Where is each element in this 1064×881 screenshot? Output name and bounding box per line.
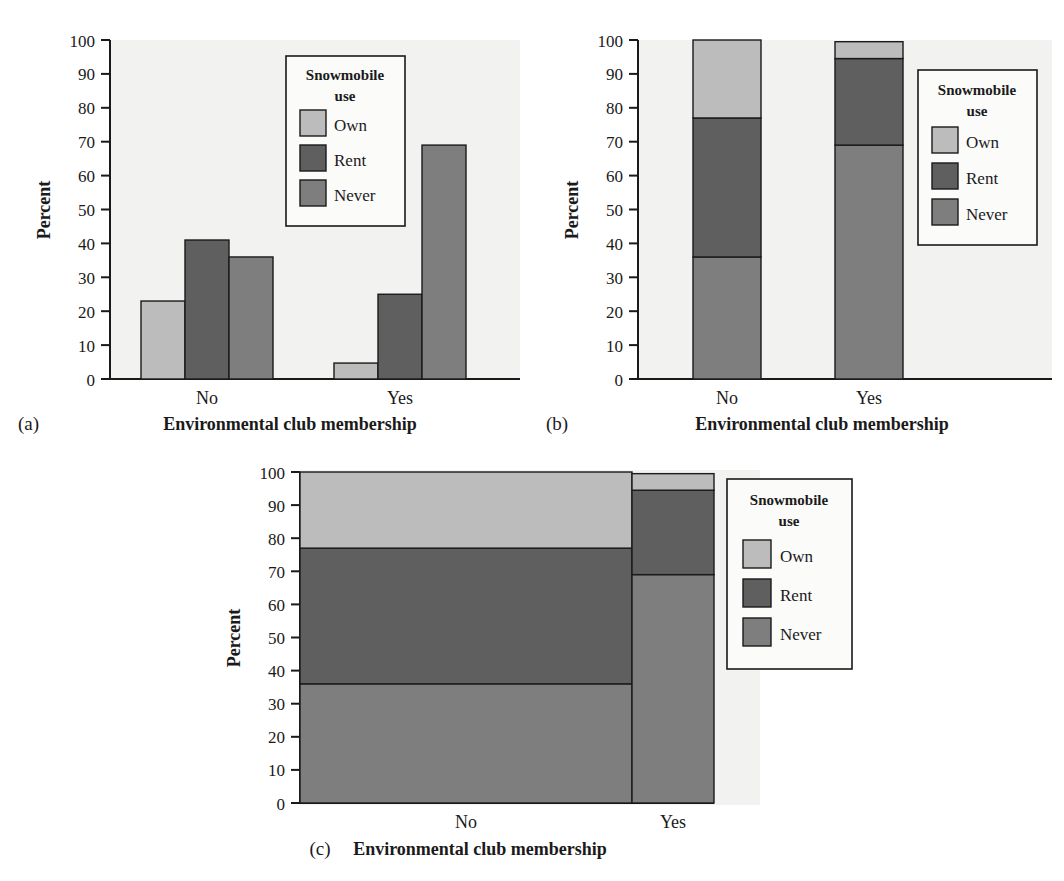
y-tick-label: 30	[268, 695, 285, 714]
y-tick-label: 40	[606, 235, 623, 254]
y-axis-ticks-b	[629, 40, 638, 379]
y-tick-label: 0	[87, 371, 96, 390]
panel-tag-a: (a)	[18, 413, 39, 435]
stack-yes-never	[835, 145, 903, 379]
y-axis-tick-labels-b: 0 10 20 30 40 50 60 70 80 90 100	[598, 32, 624, 390]
mosaic-yes-own	[632, 474, 714, 491]
y-tick-label: 100	[70, 32, 96, 51]
stack-yes-rent	[835, 59, 903, 146]
y-tick-label: 30	[78, 269, 95, 288]
legend-swatch-own-b	[932, 127, 958, 153]
x-category-label-yes-a: Yes	[387, 388, 413, 408]
x-axis-title-b: Environmental club membership	[695, 414, 949, 434]
y-tick-label: 50	[606, 201, 623, 220]
legend-label-never-c: Never	[780, 625, 822, 644]
figure-page: 0 10 20 30 40 50 60 70 80 90 100	[0, 0, 1064, 881]
mosaic-yes-never	[632, 575, 714, 803]
stack-no-never	[693, 257, 761, 379]
x-axis-title-c: Environmental club membership	[353, 839, 607, 859]
stack-no-rent	[693, 118, 761, 257]
y-tick-label: 50	[78, 201, 95, 220]
legend-label-own-c: Own	[780, 547, 814, 566]
mosaic-yes-rent	[632, 490, 714, 574]
legend-swatch-own-a	[300, 110, 326, 136]
legend-label-rent-b: Rent	[966, 169, 998, 188]
y-tick-label: 60	[78, 167, 95, 186]
y-tick-label: 40	[268, 662, 285, 681]
x-category-label-no-b: No	[716, 388, 738, 408]
y-tick-label: 70	[268, 563, 285, 582]
mosaic-column-no	[300, 472, 632, 803]
legend-swatch-never-b	[932, 199, 958, 225]
legend-title-line2-b: use	[967, 103, 988, 119]
bar-yes-never	[422, 145, 466, 379]
mosaic-column-yes	[632, 474, 714, 803]
y-tick-label: 10	[606, 337, 623, 356]
y-axis-ticks-a	[101, 40, 110, 379]
mosaic-no-never	[300, 684, 632, 803]
x-category-label-yes-b: Yes	[856, 388, 882, 408]
legend-label-own-b: Own	[966, 133, 1000, 152]
legend-label-never-a: Never	[334, 186, 376, 205]
y-tick-label: 20	[268, 728, 285, 747]
legend-a: Snowmobile use Own Rent Never	[286, 56, 405, 226]
y-axis-ticks-c	[291, 472, 300, 803]
legend-swatch-rent-c	[743, 579, 771, 607]
y-tick-label: 0	[615, 371, 624, 390]
y-tick-label: 90	[78, 65, 95, 84]
panel-tag-c: (c)	[309, 838, 330, 860]
y-axis-title-c: Percent	[224, 609, 244, 668]
panel-c-mosaic-plot: 0 10 20 30 40 50 60 70 80 90 100	[200, 440, 820, 881]
legend-swatch-never-c	[743, 618, 771, 646]
bar-yes-own	[334, 363, 378, 379]
stack-no-own	[693, 40, 761, 118]
legend-label-rent-a: Rent	[334, 151, 366, 170]
y-axis-tick-labels-c: 0 10 20 30 40 50 60 70 80 90 100	[260, 464, 286, 814]
legend-label-never-b: Never	[966, 205, 1008, 224]
x-axis-title-a: Environmental club membership	[163, 414, 417, 434]
legend-swatch-rent-a	[300, 145, 326, 171]
y-tick-label: 90	[606, 65, 623, 84]
legend-swatch-own-c	[743, 540, 771, 568]
legend-swatch-rent-b	[932, 163, 958, 189]
legend-b: Snowmobile use Own Rent Never	[918, 70, 1037, 245]
mosaic-no-rent	[300, 548, 632, 684]
legend-title-line1-c: Snowmobile	[750, 492, 829, 508]
stack-no-b	[693, 40, 761, 379]
y-axis-title-b: Percent	[562, 181, 582, 240]
panel-a-grouped-bar-chart: 0 10 20 30 40 50 60 70 80 90 100	[0, 0, 532, 440]
legend-title-line2-c: use	[779, 513, 800, 529]
bar-no-rent	[185, 240, 229, 379]
y-tick-label: 90	[268, 497, 285, 516]
y-tick-label: 20	[606, 303, 623, 322]
bar-no-never	[229, 257, 273, 379]
y-tick-label: 10	[78, 337, 95, 356]
y-tick-label: 50	[268, 629, 285, 648]
x-category-label-no-a: No	[196, 388, 218, 408]
legend-label-rent-c: Rent	[780, 586, 812, 605]
legend-title-line2-a: use	[335, 88, 356, 104]
legend-title-line1-a: Snowmobile	[306, 67, 385, 83]
legend-swatch-never-a	[300, 180, 326, 206]
legend-title-line1-b: Snowmobile	[938, 82, 1017, 98]
y-tick-label: 60	[268, 596, 285, 615]
y-tick-label: 80	[78, 99, 95, 118]
mosaic-no-own	[300, 472, 632, 548]
legend-label-own-a: Own	[334, 116, 368, 135]
panel-b-stacked-bar-chart: 0 10 20 30 40 50 60 70 80 90 100	[532, 0, 1064, 440]
bar-yes-rent	[378, 294, 422, 379]
x-category-label-no-c: No	[455, 812, 477, 832]
legend-c: Snowmobile use Own Rent Never	[727, 479, 852, 669]
y-tick-label: 20	[78, 303, 95, 322]
bar-no-own	[141, 301, 185, 379]
y-tick-label: 30	[606, 269, 623, 288]
y-tick-label: 80	[268, 530, 285, 549]
stack-yes-own	[835, 42, 903, 59]
y-axis-title-a: Percent	[34, 181, 54, 240]
y-tick-label: 10	[268, 761, 285, 780]
y-axis-tick-labels-a: 0 10 20 30 40 50 60 70 80 90 100	[70, 32, 96, 390]
x-category-label-yes-c: Yes	[660, 812, 686, 832]
panel-tag-b: (b)	[546, 413, 568, 435]
y-tick-label: 100	[260, 464, 286, 483]
y-tick-label: 80	[606, 99, 623, 118]
